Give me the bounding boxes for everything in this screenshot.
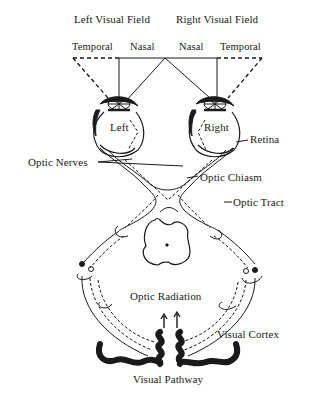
optic-nerves-label: Optic Nerves bbox=[28, 157, 88, 168]
midbrain-section bbox=[143, 219, 190, 266]
visual-field-lines bbox=[73, 58, 262, 102]
diagram-title: Visual Pathway bbox=[133, 374, 203, 385]
visual-cortex-label: Visual Cortex bbox=[217, 329, 279, 340]
right-nasal-label: Nasal bbox=[179, 42, 203, 53]
left-temporal-label: Temporal bbox=[72, 42, 113, 53]
left-nasal-label: Nasal bbox=[130, 42, 154, 53]
right-eye-label: Right bbox=[204, 122, 229, 133]
right-visual-field-label: Right Visual Field bbox=[176, 14, 258, 25]
left-visual-field-label: Left Visual Field bbox=[74, 14, 150, 25]
retina-label: Retina bbox=[250, 134, 279, 145]
optic-tract-label: Optic Tract bbox=[233, 197, 284, 208]
right-temporal-label: Temporal bbox=[220, 42, 261, 53]
lateral-geniculate-nuclei bbox=[77, 262, 262, 284]
optic-radiations bbox=[82, 276, 255, 356]
optic-radiation-label: Optic Radiation bbox=[130, 291, 201, 302]
left-eye-label: Left bbox=[110, 122, 129, 133]
optic-chiasm-label: Optic Chiasm bbox=[200, 172, 262, 183]
cortex-arrows bbox=[161, 312, 180, 328]
